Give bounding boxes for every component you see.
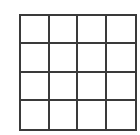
grid-cell [50,16,79,44]
grid-cell [50,73,79,101]
grid-cell [78,16,107,44]
grid-cell [78,101,107,129]
grid-cell [107,16,136,44]
grid-cell [107,73,136,101]
canvas [0,0,140,135]
grid-cell [21,44,50,72]
grid-4x4 [19,14,137,131]
grid-cell [21,16,50,44]
grid-cell [78,44,107,72]
grid-cell [50,101,79,129]
grid-cell [107,44,136,72]
grid-cell [107,101,136,129]
grid-cell [21,101,50,129]
grid-cell [78,73,107,101]
grid-cell [50,44,79,72]
grid-cell [21,73,50,101]
